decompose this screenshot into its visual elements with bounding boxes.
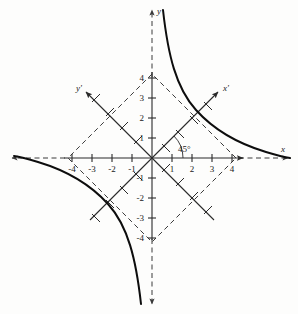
x-tick-label--2: -2 bbox=[108, 164, 116, 174]
x-axis-group bbox=[64, 154, 243, 162]
x-tick-label-2: 2 bbox=[190, 164, 195, 174]
x-tick-label--4: -4 bbox=[68, 164, 76, 174]
asymptote-group bbox=[12, 10, 288, 304]
y-tick-label--2: -2 bbox=[137, 193, 145, 203]
y-prime-tick--4 bbox=[204, 206, 212, 214]
x-prime-axis bbox=[90, 92, 218, 220]
y-prime-axis-label: y' bbox=[75, 83, 83, 93]
x-prime-tick-1 bbox=[162, 144, 170, 152]
x-prime-tick--4 bbox=[92, 214, 100, 222]
y-prime-tick-2 bbox=[120, 122, 128, 130]
y-tick-label-1: 1 bbox=[140, 133, 145, 143]
y-prime-tick--3 bbox=[190, 192, 198, 200]
y-prime-tick--2 bbox=[176, 178, 184, 186]
y-tick-label-4: 4 bbox=[140, 73, 145, 83]
x-prime-tick-3 bbox=[190, 116, 198, 124]
x-prime-tick-2 bbox=[176, 130, 184, 138]
y-tick-label-2: 2 bbox=[140, 113, 145, 123]
x-tick-label-3: 3 bbox=[210, 164, 215, 174]
hyperbola-branch-quadrant-3 bbox=[14, 156, 141, 304]
x-tick-label--1: -1 bbox=[128, 164, 136, 174]
x-axis-label: x bbox=[280, 144, 285, 154]
y-tick-label--4: -4 bbox=[137, 233, 145, 243]
x-prime-axis-group bbox=[90, 92, 218, 222]
y-tick-label--1: -1 bbox=[137, 173, 145, 183]
angle-label-45: 45° bbox=[178, 144, 191, 154]
x-tick-label--3: -3 bbox=[88, 164, 96, 174]
x-tick-label-1: 1 bbox=[170, 164, 175, 174]
x-prime-tick--2 bbox=[120, 186, 128, 194]
y-prime-tick-4 bbox=[92, 94, 100, 102]
x-prime-axis-label: x' bbox=[222, 83, 230, 93]
x-prime-tick-4 bbox=[204, 102, 212, 110]
x-tick-label-4: 4 bbox=[230, 164, 235, 174]
y-tick-label--3: -3 bbox=[137, 213, 145, 223]
plot-canvas: -4 -3 -2 -1 1 2 3 4 4 3 2 1 -1 -2 -3 -4 … bbox=[0, 0, 298, 314]
hyperbola-figure: -4 -3 -2 -1 1 2 3 4 4 3 2 1 -1 -2 -3 -4 … bbox=[0, 0, 298, 314]
y-tick-label-3: 3 bbox=[140, 93, 145, 103]
y-axis-label: y bbox=[156, 6, 161, 16]
y-prime-tick-3 bbox=[106, 108, 114, 116]
y-axis-group bbox=[148, 72, 156, 240]
